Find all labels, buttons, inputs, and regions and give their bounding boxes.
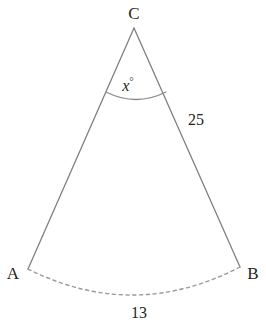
arc-measure-label: 13: [131, 305, 147, 321]
vertex-label-a: A: [7, 265, 19, 282]
segment-CB: [134, 28, 240, 267]
vertex-label-b: B: [247, 265, 258, 282]
radius-measure-label: 25: [188, 112, 204, 128]
angle-arc-C: [106, 92, 166, 100]
sector-diagram-svg: [0, 0, 266, 330]
degree-symbol: °: [129, 75, 133, 87]
segment-CA: [28, 28, 134, 269]
angle-measure-label: x°: [122, 76, 134, 94]
arc-AB-dashed: [28, 267, 240, 295]
geometry-figure: C A B 25 13 x°: [0, 0, 266, 330]
vertex-label-c: C: [128, 5, 139, 22]
